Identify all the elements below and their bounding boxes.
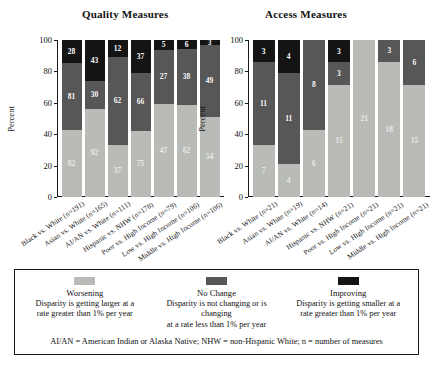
bar-value-label: 37 xyxy=(114,167,122,175)
bar-value-label: 3 xyxy=(262,48,266,56)
bar-segment-worsening: 4 xyxy=(278,164,300,197)
bar-value-label: 15 xyxy=(411,137,419,145)
bar-value-label: 3 xyxy=(387,47,391,55)
bar-value-label: 28 xyxy=(68,48,76,56)
stacked-bar: 52747 xyxy=(154,40,174,197)
bar-value-label: 62 xyxy=(183,147,191,155)
stacked-bar: 288182 xyxy=(62,40,82,197)
legend-label-no-change: No Change xyxy=(157,288,277,298)
legend-desc-no-change-line1: Disparity is not changing or is changing xyxy=(157,299,277,320)
legend-desc-improving-line1: Disparity is getting smaller at a xyxy=(288,299,408,309)
stacked-bar: 433092 xyxy=(85,40,105,197)
y-tick-label: 40 xyxy=(209,130,248,139)
bar-segment-improving: 3 xyxy=(253,40,275,62)
bar-value-label: 18 xyxy=(386,126,394,134)
stacked-bar: 63862 xyxy=(177,40,197,197)
bar-value-label: 38 xyxy=(183,73,191,81)
bar-segment-improving: 28 xyxy=(62,40,82,63)
bar-segment-worsening: 21 xyxy=(353,40,375,197)
bar-value-label: 3 xyxy=(337,48,341,56)
bar-value-label: 43 xyxy=(91,57,99,65)
bar-value-label: 49 xyxy=(206,77,214,85)
y-axis-label: Percent xyxy=(6,106,16,132)
bar-segment-improving: 5 xyxy=(154,40,174,50)
bar-value-label: 6 xyxy=(185,41,189,49)
bar-value-label: 7 xyxy=(262,167,266,175)
stacked-bar: 4114 xyxy=(278,40,300,197)
bar-value-label: 8 xyxy=(312,81,316,89)
stacked-bar: 86 xyxy=(303,40,325,197)
bar-segment-no-change: 30 xyxy=(85,81,105,110)
bar-value-label: 30 xyxy=(91,91,99,99)
legend-columns: Worsening Disparity is getting larger at… xyxy=(15,270,418,330)
bar-value-label: 21 xyxy=(360,115,368,123)
legend-swatch-worsening xyxy=(74,277,95,285)
bar-value-label: 47 xyxy=(160,147,168,155)
bar-segment-worsening: 37 xyxy=(108,145,128,197)
bar-value-label: 3 xyxy=(337,70,341,78)
y-tick-label: 0 xyxy=(209,193,248,202)
bar-value-label: 54 xyxy=(206,153,214,161)
legend-desc-worsening-line2: rate greater than 1% per year xyxy=(25,309,145,319)
legend-desc-no-change-line2: at a rate less than 1% per year xyxy=(157,320,277,330)
bar-segment-no-change: 62 xyxy=(108,57,128,145)
bar-segment-worsening: 62 xyxy=(177,105,197,197)
y-tick-label: 100 xyxy=(18,36,57,45)
y-tick-label: 0 xyxy=(18,193,57,202)
stacked-bar: 3315 xyxy=(328,40,350,197)
bar-value-label: 37 xyxy=(137,53,145,61)
bar-value-label: 6 xyxy=(413,59,417,67)
legend-label-improving: Improving xyxy=(288,288,408,298)
stacked-bar: 3117 xyxy=(253,40,275,197)
bar-value-label: 82 xyxy=(68,160,76,168)
y-tick-label: 100 xyxy=(209,36,248,45)
bar-segment-no-change: 66 xyxy=(131,73,151,131)
stacked-bar: 21 xyxy=(353,40,375,197)
legend-box: Worsening Disparity is getting larger at… xyxy=(14,269,419,355)
bar-segment-worsening: 92 xyxy=(85,109,105,197)
y-tick-label: 80 xyxy=(18,67,57,76)
bar-segment-improving: 4 xyxy=(278,40,300,73)
bar-segment-no-change: 38 xyxy=(177,49,197,105)
bar-segment-improving: 43 xyxy=(85,40,105,81)
legend-footnote: AI/AN = American Indian or Alaska Native… xyxy=(15,337,418,346)
legend-item-no-change: No Change Disparity is not changing or i… xyxy=(151,277,283,330)
bar-value-label: 15 xyxy=(335,137,343,145)
y-axis-label: Percent xyxy=(197,106,207,132)
legend-label-worsening: Worsening xyxy=(25,288,145,298)
bar-value-label: 6 xyxy=(312,160,316,168)
bar-segment-worsening: 82 xyxy=(62,130,82,197)
y-tick-label: 60 xyxy=(209,99,248,108)
bar-segment-improving: 37 xyxy=(131,40,151,73)
bar-segment-no-change: 3 xyxy=(328,62,350,84)
y-tick-label: 80 xyxy=(209,67,248,76)
stacked-bar: 376675 xyxy=(131,40,151,197)
y-tick-label: 20 xyxy=(209,161,248,170)
bar-segment-worsening: 18 xyxy=(378,62,400,197)
bar-segment-worsening: 75 xyxy=(131,131,151,197)
access-chart-panel: 020406080100 Percent 3117411486331521318… xyxy=(248,40,430,197)
bar-segment-improving: 3 xyxy=(328,40,350,62)
bar-value-label: 92 xyxy=(91,149,99,157)
bar-value-label: 11 xyxy=(285,115,292,123)
bar-segment-worsening: 47 xyxy=(154,104,174,197)
y-tick-label: 20 xyxy=(18,161,57,170)
bar-segment-no-change: 6 xyxy=(403,40,425,85)
legend-swatch-no-change xyxy=(206,277,227,285)
bar-segment-no-change: 3 xyxy=(378,40,400,62)
bar-segment-improving: 6 xyxy=(177,40,197,49)
quality-chart-title: Quality Measures xyxy=(82,8,168,20)
x-axis-labels: Black vs. White (n=21)Asian vs. White (n… xyxy=(248,197,430,259)
bar-segment-worsening: 15 xyxy=(328,85,350,197)
bar-value-label: 81 xyxy=(68,93,76,101)
bar-value-label: 75 xyxy=(137,160,145,168)
bar-value-label: 12 xyxy=(114,45,122,53)
bar-segment-worsening: 6 xyxy=(303,130,325,197)
x-axis-labels: Black vs. White (n=191)Asian vs. White (… xyxy=(57,197,224,259)
bar-value-label: 66 xyxy=(137,98,145,106)
bar-value-label: 62 xyxy=(114,97,122,105)
legend-item-improving: Improving Disparity is getting smaller a… xyxy=(282,277,414,330)
bar-segment-no-change: 11 xyxy=(278,73,300,164)
bar-value-label: 27 xyxy=(160,73,168,81)
bar-segment-no-change: 8 xyxy=(303,40,325,130)
